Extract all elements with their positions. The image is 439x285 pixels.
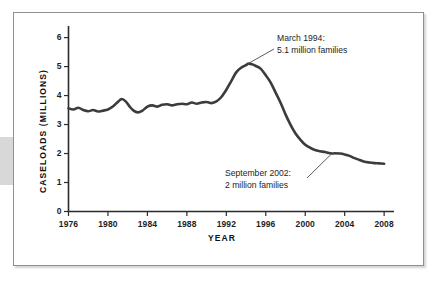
x-tick-label: 1980 — [97, 219, 119, 229]
annotation-peak-line1: March 1994: — [277, 33, 347, 45]
y-axis-title: CASELOADS (MILLIONS) — [38, 69, 48, 193]
x-tick-label: 2008 — [373, 219, 395, 229]
annotation-peak-line2: 5.1 million families — [277, 45, 347, 57]
x-tick-label: 1984 — [136, 219, 158, 229]
annotation-trough-line2: 2 million families — [225, 180, 291, 192]
caseload-line-series — [69, 64, 385, 164]
x-tick-label: 1988 — [176, 219, 198, 229]
x-tick-label: 1996 — [255, 219, 277, 229]
annotation-peak: March 1994: 5.1 million families — [277, 33, 347, 56]
x-axis-title: YEAR — [208, 233, 236, 243]
x-tick-label: 2000 — [294, 219, 316, 229]
x-tick-label: 1992 — [215, 219, 237, 229]
y-tick-label: 6 — [45, 32, 62, 42]
annotation-trough: September 2002: 2 million families — [225, 168, 291, 191]
y-tick-label: 0 — [45, 206, 62, 216]
figure-container: 0123456 19761980198419881992199620002004… — [0, 0, 439, 285]
annotation-trough-line1: September 2002: — [225, 168, 291, 180]
x-tick-label: 1976 — [58, 219, 80, 229]
x-tick-label: 2004 — [334, 219, 356, 229]
